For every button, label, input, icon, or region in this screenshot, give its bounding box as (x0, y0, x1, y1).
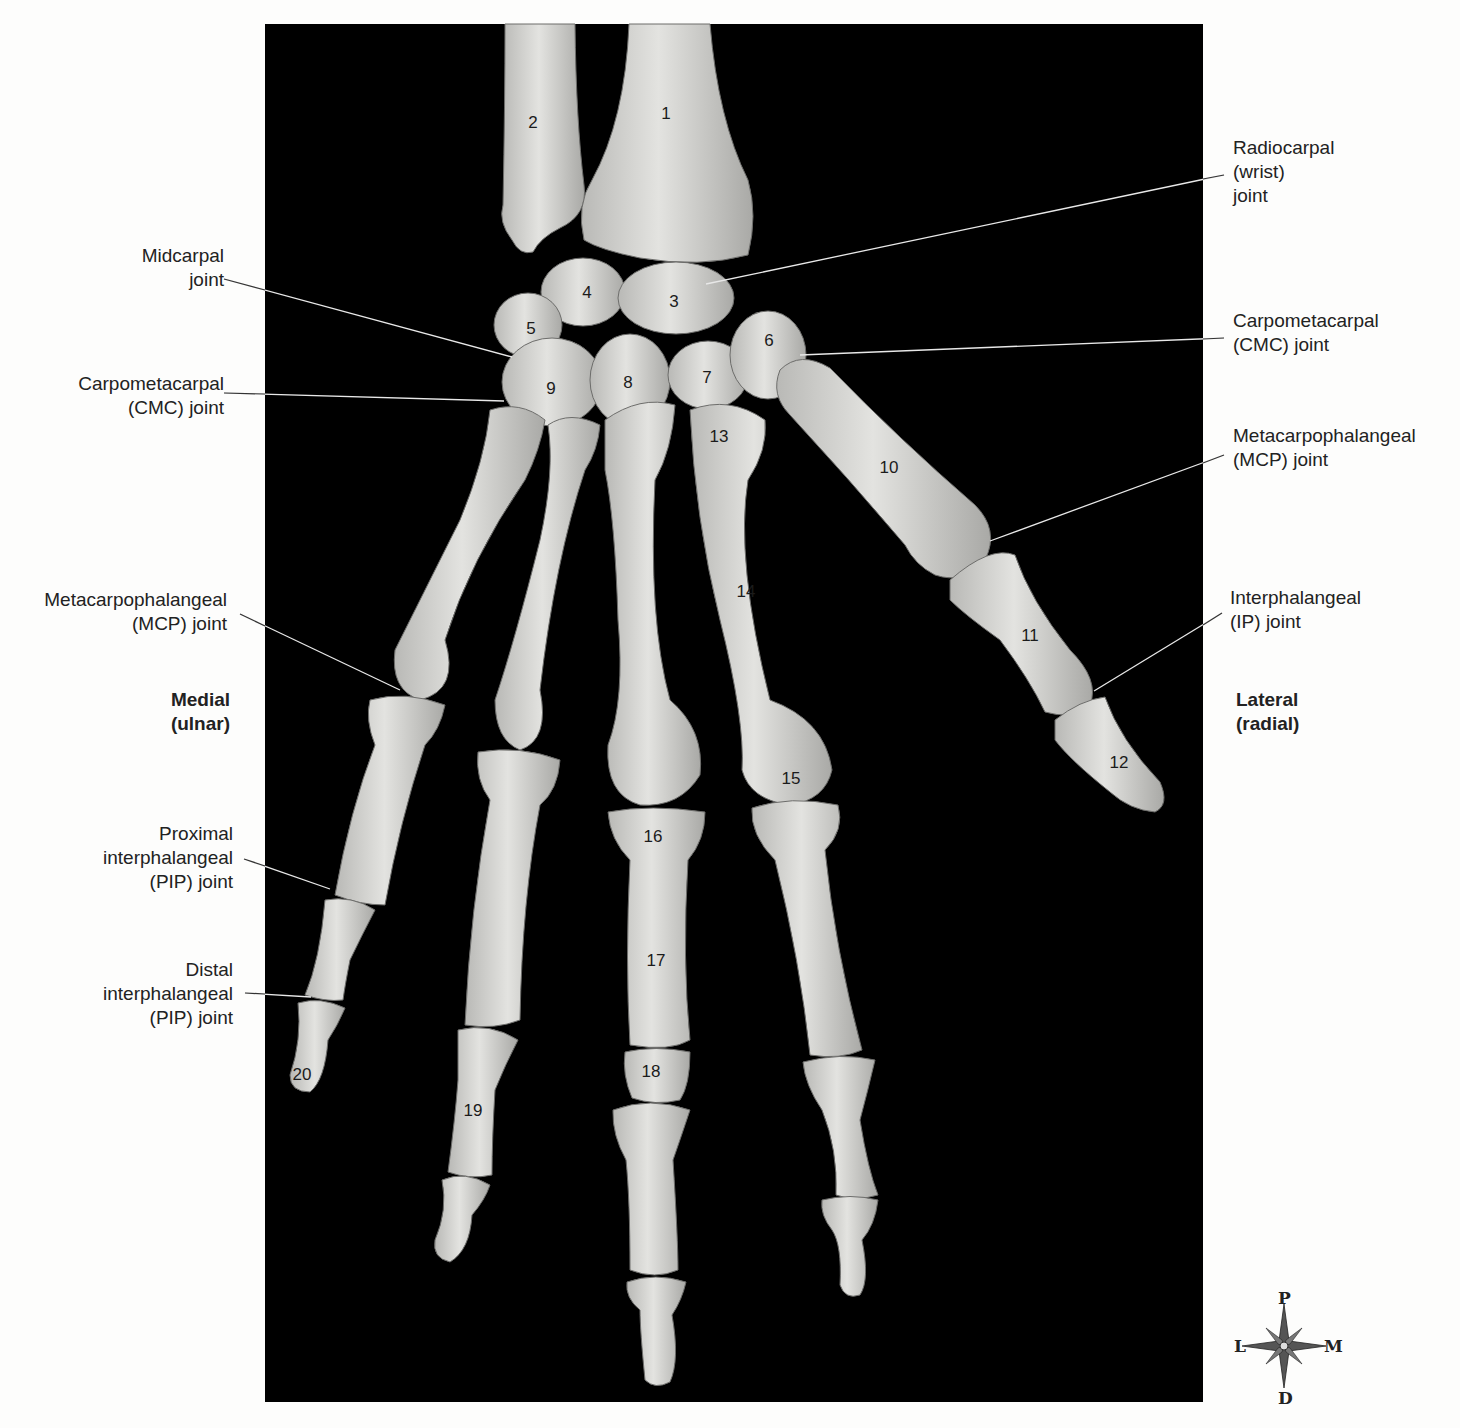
bone-number-14: 14 (737, 582, 756, 601)
middle-middle2-phalanx-bone (613, 1103, 690, 1275)
ring-distal-phalanx-bone (435, 1176, 490, 1262)
label-mcp-joint-left: Metacarpophalangeal (MCP) joint (0, 588, 227, 636)
index-middle-phalanx-bone (803, 1056, 878, 1198)
little-proximal-phalanx-bone (335, 696, 445, 905)
bone-number-8: 8 (623, 373, 632, 392)
bone-number-17: 17 (647, 951, 666, 970)
bone-number-6: 6 (764, 331, 773, 350)
ring-proximal-phalanx-bone (465, 750, 560, 1027)
leader-mcp-right (990, 455, 1224, 541)
bone-number-7: 7 (702, 368, 711, 387)
ulna-bone (502, 24, 585, 253)
index-metacarpal-bone (690, 404, 832, 805)
label-lateral-radial: Lateral (radial) (1236, 688, 1299, 736)
compass-medial: M (1324, 1336, 1343, 1356)
middle-metacarpal-bone (605, 402, 701, 805)
compass-rose-icon (1242, 1304, 1326, 1388)
bone-number-18: 18 (642, 1062, 661, 1081)
compass-lateral: L (1234, 1336, 1246, 1356)
label-dip-joint: Distal interphalangeal (PIP) joint (40, 958, 233, 1030)
label-ip-joint: Interphalangeal (IP) joint (1230, 586, 1361, 634)
radius-bone (581, 24, 753, 262)
hand-bones-figure: 1234567891011121314151617181920 Midcarpa… (0, 0, 1460, 1428)
bone-number-10: 10 (880, 458, 899, 477)
leader-ip (1094, 613, 1222, 691)
leader-midcarpal (224, 279, 512, 357)
index-proximal-phalanx-bone (752, 801, 862, 1057)
label-midcarpal-joint: Midcarpal joint (40, 244, 224, 292)
label-cmc-joint-left: Carpometacarpal (CMC) joint (20, 372, 224, 420)
bone-number-20: 20 (293, 1065, 312, 1084)
bone-number-11: 11 (1021, 626, 1039, 645)
bone-number-5: 5 (526, 319, 535, 338)
label-radiocarpal-joint: Radiocarpal (wrist) joint (1233, 136, 1334, 208)
compass-distal: D (1278, 1388, 1293, 1408)
bone-number-3: 3 (669, 292, 678, 311)
little-middle-phalanx-bone (305, 899, 375, 1001)
bone-number-9: 9 (546, 379, 555, 398)
bone-number-2: 2 (528, 113, 537, 132)
label-mcp-joint-right: Metacarpophalangeal (MCP) joint (1233, 424, 1416, 472)
index-distal-phalanx-bone (822, 1197, 878, 1297)
leader-cmc-left (224, 393, 504, 401)
bone-number-16: 16 (644, 827, 663, 846)
compass-proximal: P (1278, 1288, 1291, 1308)
middle-distal-phalanx-bone (627, 1277, 686, 1386)
bone-number-13: 13 (710, 427, 729, 446)
label-pip-joint: Proximal interphalangeal (PIP) joint (40, 822, 233, 894)
label-medial-ulnar: Medial (ulnar) (100, 688, 230, 736)
bone-number-15: 15 (782, 769, 801, 788)
ring-middle-phalanx-bone (448, 1028, 518, 1177)
leader-radiocarpal (706, 175, 1224, 284)
bone-number-1: 1 (661, 104, 670, 123)
bone-number-4: 4 (582, 283, 591, 302)
bone-number-19: 19 (464, 1101, 483, 1120)
leader-cmc-right (800, 338, 1224, 355)
label-cmc-joint-right: Carpometacarpal (CMC) joint (1233, 309, 1379, 357)
bone-number-12: 12 (1110, 753, 1129, 772)
